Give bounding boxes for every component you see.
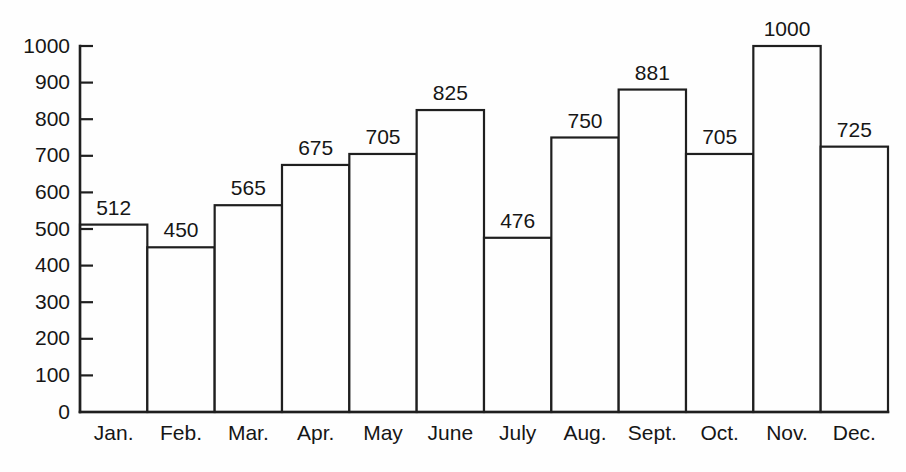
bar-value-label: 1000: [764, 17, 811, 40]
bar-value-label: 565: [231, 176, 266, 199]
bar-mar[interactable]: [215, 205, 282, 412]
bar-feb[interactable]: [147, 247, 214, 412]
y-axis-label-500: 500: [35, 217, 70, 240]
bar-value-label: 725: [837, 118, 872, 141]
x-axis-label-june: June: [428, 421, 474, 444]
bar-value-label: 705: [702, 125, 737, 148]
x-axis-label-feb: Feb.: [160, 421, 202, 444]
bar-may[interactable]: [349, 154, 416, 412]
x-axis-label-aug: Aug.: [563, 421, 606, 444]
bar-dec[interactable]: [821, 147, 888, 412]
y-axis-tick-labels: 01002003004005006007008009001000: [23, 34, 70, 423]
y-axis-label-200: 200: [35, 326, 70, 349]
bar-jan[interactable]: [80, 225, 147, 412]
x-axis-label-may: May: [363, 421, 403, 444]
x-axis-label-mar: Mar.: [228, 421, 269, 444]
x-axis-tick-labels: Jan.Feb.Mar.Apr.MayJuneJulyAug.Sept.Oct.…: [94, 421, 876, 444]
x-axis-label-apr: Apr.: [297, 421, 334, 444]
bar-value-label: 881: [635, 61, 670, 84]
x-axis-label-oct: Oct.: [700, 421, 739, 444]
x-axis-label-nov: Nov.: [766, 421, 808, 444]
bar-value-label: 450: [163, 218, 198, 241]
bars-group: [80, 46, 888, 412]
bar-oct[interactable]: [686, 154, 753, 412]
bar-value-label: 825: [433, 81, 468, 104]
y-axis-label-100: 100: [35, 363, 70, 386]
bar-july[interactable]: [484, 238, 551, 412]
bar-value-label: 675: [298, 136, 333, 159]
y-axis-label-400: 400: [35, 253, 70, 276]
bar-nov[interactable]: [753, 46, 820, 412]
bar-aug[interactable]: [551, 138, 618, 413]
y-axis-label-1000: 1000: [23, 34, 70, 57]
bar-value-label: 512: [96, 196, 131, 219]
bar-apr[interactable]: [282, 165, 349, 412]
bar-chart-figure: 01002003004005006007008009001000 Jan.Feb…: [0, 0, 906, 472]
bar-value-label: 705: [365, 125, 400, 148]
x-axis-label-jan: Jan.: [94, 421, 134, 444]
bar-value-label: 476: [500, 209, 535, 232]
x-axis-label-july: July: [499, 421, 537, 444]
y-axis-label-0: 0: [58, 400, 70, 423]
chart-canvas: 01002003004005006007008009001000 Jan.Feb…: [0, 0, 906, 472]
bar-sept[interactable]: [619, 90, 686, 412]
y-axis-label-900: 900: [35, 70, 70, 93]
bar-june[interactable]: [417, 110, 484, 412]
x-axis-label-sept: Sept.: [628, 421, 677, 444]
y-axis-label-700: 700: [35, 143, 70, 166]
bar-value-label: 750: [567, 109, 602, 132]
y-axis-label-800: 800: [35, 107, 70, 130]
y-axis-label-300: 300: [35, 290, 70, 313]
y-axis-label-600: 600: [35, 180, 70, 203]
x-axis-label-dec: Dec.: [833, 421, 876, 444]
